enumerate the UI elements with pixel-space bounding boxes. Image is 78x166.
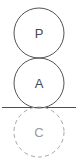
diagram-canvas: P A C [0,0,78,166]
circle-p-label: P [35,26,44,41]
diagram-svg: P A C [0,0,78,166]
circle-c-label: C [34,125,43,140]
circle-a-label: A [35,76,44,91]
